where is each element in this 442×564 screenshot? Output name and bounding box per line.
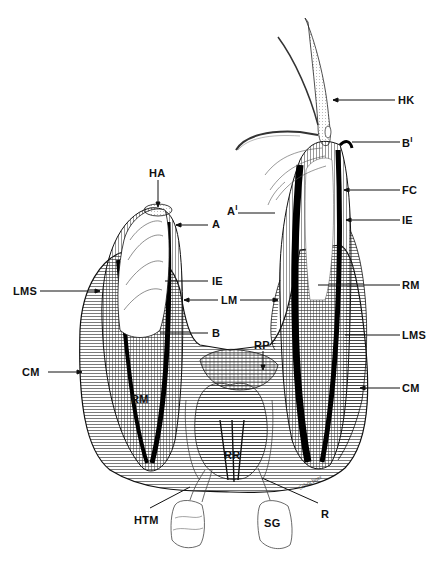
label-b: B xyxy=(212,328,220,339)
label-hk: HK xyxy=(398,95,415,106)
label-htm: HTM xyxy=(134,515,159,526)
label-ie-right: IE xyxy=(402,215,413,226)
label-cm-right: CM xyxy=(402,383,420,394)
label-cm-left: CM xyxy=(22,367,40,378)
label-sg: SG xyxy=(264,518,281,529)
label-lm: LM xyxy=(221,295,237,306)
label-r: R xyxy=(321,509,329,520)
label-ie-left: IE xyxy=(212,276,223,287)
label-lms-left: LMS xyxy=(13,286,37,297)
label-a-prime: AI xyxy=(227,204,238,217)
label-b-prime: BI xyxy=(402,136,413,149)
label-rp: RP xyxy=(254,340,270,351)
label-fc: FC xyxy=(402,185,417,196)
label-rm-left: RM xyxy=(131,394,149,405)
label-a: A xyxy=(212,219,220,230)
label-lms-right: LMS xyxy=(402,330,426,341)
label-rm-right: RM xyxy=(402,280,420,291)
label-rr: RR xyxy=(224,450,241,461)
label-ha: HA xyxy=(149,168,166,179)
